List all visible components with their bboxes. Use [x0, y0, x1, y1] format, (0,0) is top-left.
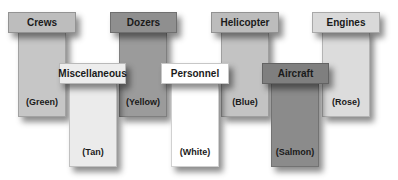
- miscellaneous-color-label: (Tan): [70, 147, 116, 157]
- helicopter-color-label: (Blue): [222, 97, 268, 107]
- miscellaneous-header: Miscellaneous: [59, 63, 126, 84]
- personnel-color-label: (White): [172, 147, 218, 157]
- miscellaneous-stem: (Tan): [69, 81, 117, 167]
- crews-color-label: (Green): [19, 97, 65, 107]
- personnel-stem: (White): [171, 81, 219, 167]
- helicopter-header: Helicopter: [211, 12, 279, 33]
- crews-header: Crews: [8, 12, 76, 33]
- engines-stem: (Rose): [322, 30, 370, 117]
- engines-header: Engines: [312, 12, 380, 33]
- dozers-header: Dozers: [110, 12, 177, 33]
- aircraft-stem: (Salmon): [271, 81, 319, 167]
- aircraft-header: Aircraft: [262, 63, 329, 84]
- aircraft-color-label: (Salmon): [272, 147, 318, 157]
- dozers-color-label: (Yellow): [120, 97, 166, 107]
- engines-color-label: (Rose): [323, 97, 369, 107]
- personnel-header: Personnel: [161, 63, 229, 84]
